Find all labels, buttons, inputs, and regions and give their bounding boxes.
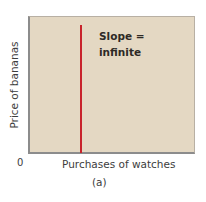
slope-annotation: Slope = infinite: [99, 28, 144, 60]
vertical-line: [80, 25, 82, 153]
x-axis-label: Purchases of watches: [62, 158, 175, 170]
origin-label: 0: [17, 157, 23, 168]
annotation-line-2: infinite: [99, 44, 144, 60]
annotation-line-1: Slope =: [99, 28, 144, 44]
figure-caption: (a): [92, 176, 107, 188]
y-axis-label: Price of bananas: [8, 41, 20, 128]
